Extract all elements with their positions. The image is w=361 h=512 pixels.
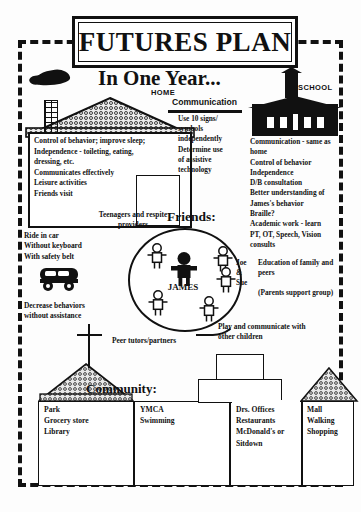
antenna-pole-icon — [88, 324, 90, 368]
school-goal-item: PT, OT, Speech, Vision — [250, 230, 342, 240]
peer-tutors-note: Peer tutors/partners — [112, 336, 176, 345]
block-seam-mask — [232, 400, 300, 403]
family-education-note: Education of family and peers — [258, 258, 342, 279]
home-goal-item: Independence - toileting, eating, — [34, 147, 180, 158]
bus-icon — [38, 266, 82, 296]
friends-heading: Friends: — [167, 209, 216, 225]
communication-item: symbols — [178, 124, 248, 134]
page-title: FUTURES PLAN — [79, 27, 291, 58]
school-label: SCHOOL — [298, 83, 332, 92]
community-item: Drs. Offices — [236, 404, 304, 415]
home-goal-item: Friends visit — [34, 189, 180, 200]
community-item: Shopping — [307, 426, 357, 437]
community-item: Grocery store — [44, 415, 134, 426]
antenna-crossbar-icon — [77, 334, 102, 336]
community-item: Walking — [307, 415, 357, 426]
school-goal-item: consults — [250, 240, 342, 250]
teenagers-respite-note: Teenagers and respite providers — [92, 210, 174, 230]
school-goal-item: Braille? — [250, 209, 342, 219]
behavior-item: Decrease behaviors — [24, 301, 85, 311]
community-item: Park — [44, 404, 134, 415]
transport-item: Ride in car — [24, 231, 82, 241]
school-goal-item: home — [250, 147, 342, 157]
offices-items: Drs. Offices Restaurants McDonald's or S… — [236, 404, 304, 449]
home-goals-list: Control of behavior; improve sleep; Inde… — [34, 136, 180, 200]
community-item: Sitdown — [236, 438, 304, 449]
friend-figure-icon — [147, 290, 169, 317]
parents-names: Joe & Sue — [236, 258, 252, 288]
friend-figure-icon — [215, 267, 237, 294]
community-item: YMCA — [140, 404, 230, 415]
play-communicate-note: Play and communicate with other children — [218, 322, 318, 342]
communication-item: Use 10 signs/ — [178, 114, 248, 124]
chimney-icon — [44, 100, 58, 134]
transport-list: Ride in car Without keyboard With safety… — [24, 231, 82, 262]
community-item: Library — [44, 426, 134, 437]
communication-heading: Communication — [172, 97, 237, 107]
parents-support-note: (Parents support group) — [258, 288, 342, 298]
community-item: Swimming — [140, 415, 230, 426]
mall-roof-icon — [299, 366, 359, 404]
transport-item: Without keyboard — [24, 241, 82, 251]
office-penthouse-icon — [216, 354, 264, 380]
poster-title-box: FUTURES PLAN — [72, 16, 298, 68]
school-goal-item: Better understanding of — [250, 188, 342, 198]
transport-item: With safety belt — [24, 252, 82, 262]
school-goal-item: Academic work - learn — [250, 219, 342, 229]
home-goal-item: Leisure activities — [34, 178, 180, 189]
home-goal-item: dressing, etc. — [34, 157, 180, 168]
home-label: HOME — [151, 88, 175, 97]
james-name-label: JAMES — [156, 282, 210, 292]
behavior-list: Decrease behaviors without assistance — [24, 301, 85, 322]
friend-figure-icon — [198, 296, 220, 323]
home-goal-item: Communicates effectively — [34, 168, 180, 179]
school-goal-item: Control of behavior — [250, 158, 342, 168]
james-figure-icon — [170, 252, 198, 286]
futures-plan-poster: FUTURES PLAN In One Year... HOME Control… — [0, 0, 361, 512]
community-item: Mall — [307, 404, 357, 415]
communication-list: Use 10 signs/ symbols independently Dete… — [178, 114, 248, 175]
communication-item: of assistive — [178, 155, 248, 165]
home-goal-item: Control of behavior; improve sleep; — [34, 136, 180, 147]
communication-item: technology — [178, 165, 248, 175]
school-bell-tower-icon — [285, 72, 298, 98]
community-item: Restaurants — [236, 415, 304, 426]
communication-underline — [168, 110, 242, 113]
school-windows-icon — [256, 112, 334, 132]
school-goal-item: Communication - same as — [250, 137, 342, 147]
communication-item: independently — [178, 134, 248, 144]
school-goal-item: James's behavior — [250, 199, 342, 209]
school-goal-item: D/B consultation — [250, 178, 342, 188]
communication-item: Determine use — [178, 145, 248, 155]
community-item: McDonald's or — [236, 426, 304, 437]
school-goal-item: Independence — [250, 168, 342, 178]
school-goals-list: Communication - same as home Control of … — [250, 137, 342, 250]
park-items: Park Grocery store Library — [44, 404, 134, 438]
community-heading: Community: — [86, 381, 157, 397]
friend-figure-icon — [146, 243, 168, 270]
mall-items: Mall Walking Shopping — [307, 404, 357, 438]
behavior-item: without assistance — [24, 311, 85, 321]
ymca-items: YMCA Swimming — [140, 404, 230, 426]
